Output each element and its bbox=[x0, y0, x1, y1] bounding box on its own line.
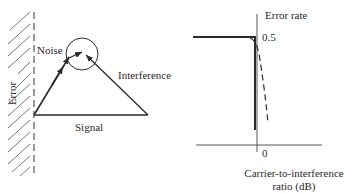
x-axis-label-line1: Carrier-to-interference bbox=[238, 168, 348, 179]
noise-vector bbox=[34, 57, 69, 115]
y-tick-label: 0.5 bbox=[262, 32, 276, 43]
actual-error-curve bbox=[250, 38, 268, 124]
error-label: Error bbox=[7, 82, 18, 105]
noise-vector-second-arrow bbox=[52, 67, 63, 85]
x-tick-label: 0 bbox=[262, 148, 268, 159]
y-axis-label: Error rate bbox=[265, 10, 307, 21]
interference-vector bbox=[86, 55, 148, 115]
noise-label: Noise bbox=[37, 45, 63, 56]
interference-sub-vector bbox=[69, 52, 82, 58]
interference-label: Interference bbox=[118, 70, 171, 81]
signal-label: Signal bbox=[75, 122, 103, 133]
uncertainty-circle bbox=[66, 38, 98, 70]
x-axis-label: Carrier-to-interference ratio (dB) bbox=[238, 168, 348, 192]
ideal-error-curve bbox=[193, 37, 255, 130]
x-axis-label-line2: ratio (dB) bbox=[238, 181, 348, 192]
